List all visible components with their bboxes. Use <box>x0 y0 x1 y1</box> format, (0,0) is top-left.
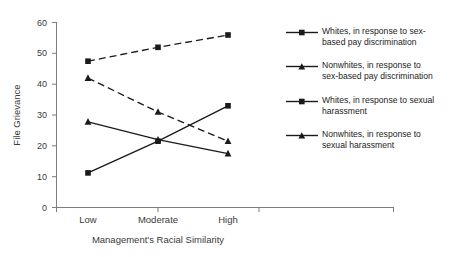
data-point-marker <box>85 58 91 64</box>
y-axis-title: File Grievance <box>11 84 22 145</box>
x-category-label-high: High <box>218 214 238 225</box>
data-point-marker <box>225 103 231 109</box>
legend-key-square-icon <box>286 96 318 107</box>
y-tick-label-40: 40 <box>37 79 47 89</box>
legend-key-triangle-icon <box>286 130 318 141</box>
x-axis-title: Management's Racial Similarity <box>92 234 224 245</box>
legend-key-square-icon <box>286 27 318 38</box>
y-tick-label-30: 30 <box>37 110 47 120</box>
data-point-marker <box>225 32 231 38</box>
y-tick-label-50: 50 <box>37 48 47 58</box>
x-category-label-low: Low <box>79 214 97 225</box>
legend-label: Nonwhites, in response to sexual harassm… <box>322 129 421 150</box>
series-whites-pay-discrimination <box>85 32 231 64</box>
series-nonwhites-pay-discrimination <box>85 74 232 144</box>
legend-item-nonwhites-pay: Nonwhites, in response to sex-based pay … <box>286 60 446 81</box>
data-point-marker <box>155 45 161 51</box>
y-tick-label-10: 10 <box>37 172 47 182</box>
data-point-marker <box>85 118 92 125</box>
legend-item-nonwhites-harassment: Nonwhites, in response to sexual harassm… <box>286 129 446 150</box>
legend-item-whites-harassment: Whites, in response to sexual harassment <box>286 95 446 116</box>
series-nonwhites-sexual-harassment <box>85 118 232 156</box>
y-tick-label-20: 20 <box>37 141 47 151</box>
legend-item-whites-pay: Whites, in response to sex- based pay di… <box>286 26 446 47</box>
x-axis-ticks <box>57 208 394 213</box>
data-point-marker <box>85 170 91 176</box>
data-point-marker <box>155 108 162 115</box>
chart-legend: Whites, in response to sex- based pay di… <box>286 26 446 164</box>
x-category-label-moderate: Moderate <box>138 214 178 225</box>
y-tick-label-60: 60 <box>37 18 47 28</box>
data-point-marker <box>225 137 232 144</box>
legend-key-triangle-icon <box>286 61 318 72</box>
chart-figure: 0 10 20 30 40 50 60 Low Moderate High Ma… <box>0 0 449 257</box>
legend-label: Nonwhites, in response to sex-based pay … <box>322 60 433 81</box>
y-axis-ticks <box>52 23 57 208</box>
y-tick-label-0: 0 <box>42 203 47 213</box>
legend-label: Whites, in response to sexual harassment <box>322 95 434 116</box>
data-point-marker <box>85 74 92 81</box>
legend-label: Whites, in response to sex- based pay di… <box>322 26 426 47</box>
